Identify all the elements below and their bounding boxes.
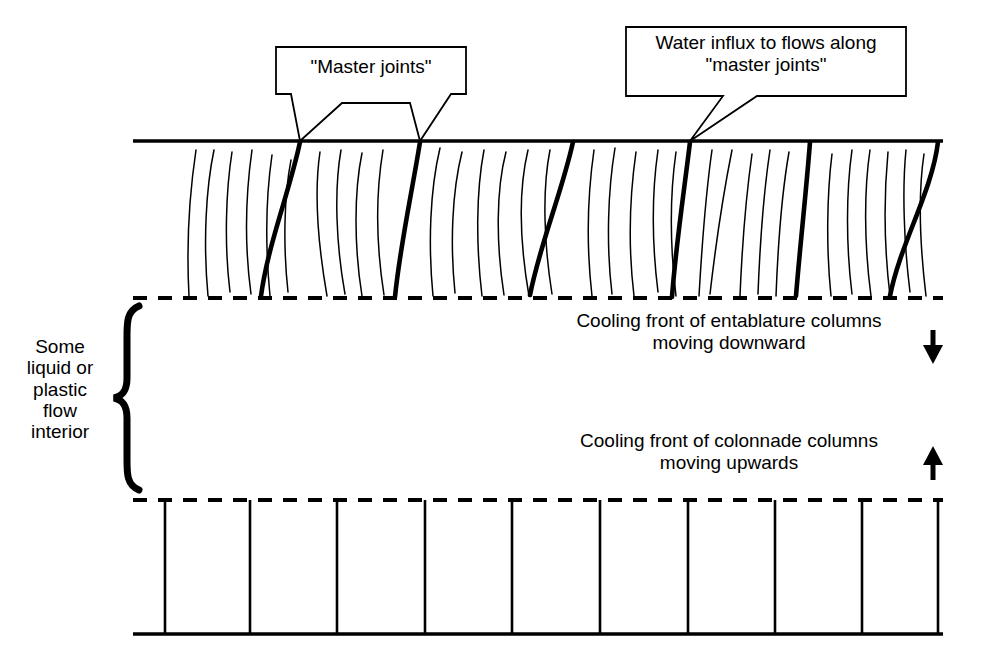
interior-label: Some liquid or plastic flow interior [12,336,108,442]
colonnade-column-lines [165,500,938,634]
entablature-cooling-front-label: Cooling front of entablature columns mov… [548,310,910,354]
master-joint-lines [261,142,938,297]
callout-master-joints-label: "Master joints" [276,56,466,78]
entablature-thin-joints [188,148,926,296]
arrow-down-icon [923,330,943,364]
colonnade-cooling-front-label: Cooling front of colonnade columns movin… [548,430,910,474]
diagram-canvas: "Master joints" Water influx to flows al… [0,0,981,671]
callout-water-influx-label: Water influx to flows along "master join… [626,32,906,76]
interior-brace [114,306,139,490]
arrow-up-icon [923,446,943,480]
